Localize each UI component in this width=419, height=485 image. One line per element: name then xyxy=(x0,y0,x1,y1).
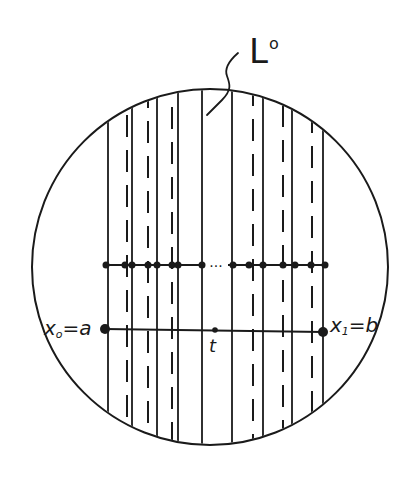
endpoint-label-x1-b: x1=b xyxy=(330,315,378,337)
intersection-dot xyxy=(322,262,329,269)
endpoint-dot-b xyxy=(318,327,328,337)
endpoint-a-var: x xyxy=(44,316,56,340)
endpoint-b-var: x xyxy=(330,313,342,337)
foliation-disk-diagram: ... xyxy=(0,0,419,485)
intersection-dot xyxy=(145,262,152,269)
endpoint-dot-a xyxy=(100,324,110,334)
intersection-dot xyxy=(308,262,315,269)
intersection-dot xyxy=(199,262,206,269)
intersection-dot xyxy=(280,262,287,269)
upper-transversal: ... xyxy=(103,254,329,270)
intersection-dot xyxy=(169,262,176,269)
leaf-label-L0: Lo xyxy=(249,34,279,68)
endpoint-b-eq: =b xyxy=(349,313,378,337)
intersection-dot xyxy=(175,262,182,269)
endpoint-b-sub: 1 xyxy=(342,325,349,338)
leaf-label-base: L xyxy=(249,31,268,71)
endpoint-a-eq: =a xyxy=(63,316,92,340)
endpoint-a-sub: o xyxy=(56,328,63,341)
intersection-dot xyxy=(103,262,110,269)
intersection-dot xyxy=(122,262,129,269)
intersection-dot xyxy=(292,262,299,269)
intersection-dot xyxy=(230,262,237,269)
leaf-label-sup: o xyxy=(269,34,279,53)
intersection-dot xyxy=(246,262,253,269)
midpoint-label-t: t xyxy=(209,337,216,355)
point-dot-t xyxy=(212,327,218,333)
intersection-dot xyxy=(260,262,267,269)
intersection-dot xyxy=(154,262,161,269)
leader-curve xyxy=(207,53,238,115)
intersection-dot xyxy=(129,262,136,269)
endpoint-label-x0-a: xo=a xyxy=(44,318,92,340)
ellipsis-mark: ... xyxy=(209,254,222,270)
